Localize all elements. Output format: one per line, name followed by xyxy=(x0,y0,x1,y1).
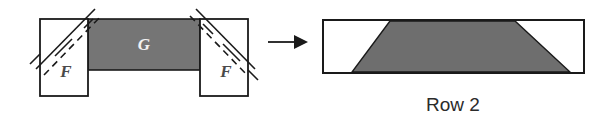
left-ferroelectric-label: F xyxy=(59,62,72,81)
transformation-arrow xyxy=(268,35,308,49)
gate-block-label: G xyxy=(138,35,151,54)
right-ferroelectric-label: F xyxy=(219,62,232,81)
diagram-container: G F F xyxy=(0,0,610,124)
after-state-group xyxy=(323,20,584,73)
arrow-head-icon xyxy=(294,35,308,49)
before-state-group: G F F xyxy=(30,9,258,96)
diagram-canvas: G F F xyxy=(0,0,610,124)
row-caption: Row 2 xyxy=(426,94,480,115)
right-ferroelectric-block xyxy=(200,19,248,96)
